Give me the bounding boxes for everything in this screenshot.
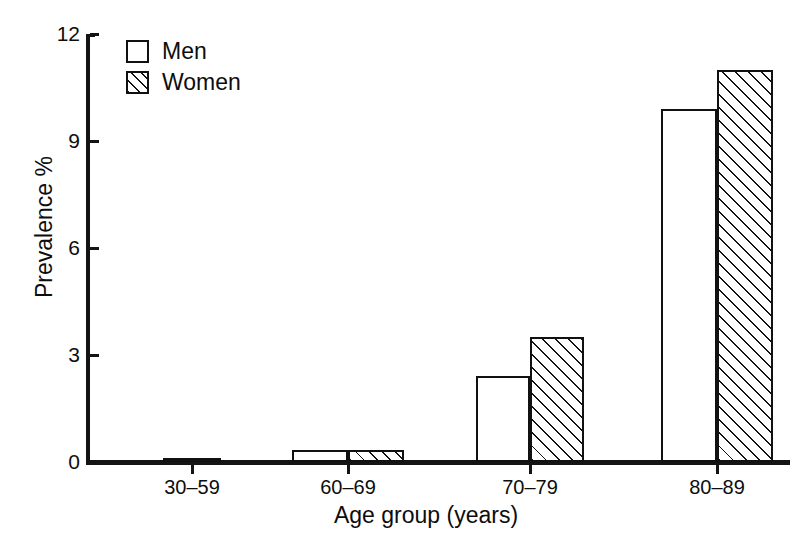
bar-men-70-79: [476, 376, 530, 462]
bar-women-30-59: [192, 458, 221, 462]
legend-label-men: Men: [162, 40, 207, 63]
y-tick-mark: [90, 247, 99, 250]
y-tick-mark: [90, 354, 99, 357]
y-tick-mark: [90, 140, 99, 143]
bar-men-60-69: [292, 450, 348, 462]
legend-item-men: Men: [126, 36, 241, 67]
x-tick-label: 60–69: [278, 476, 418, 498]
bar-women-70-79: [530, 337, 584, 462]
y-tick-label-wrap: 0: [30, 451, 80, 472]
legend-label-women: Women: [162, 71, 241, 94]
bar-men-80-89: [661, 109, 717, 462]
bar-men-30-59: [163, 458, 192, 462]
x-tick-mark: [529, 463, 532, 474]
x-tick-mark: [716, 463, 719, 474]
x-tick-label: 30–59: [122, 476, 262, 498]
y-axis-title: Prevalence %: [31, 97, 57, 357]
legend: Men Women: [126, 36, 241, 98]
bar-women-80-89: [717, 70, 773, 462]
legend-swatch-women-icon: [126, 71, 149, 94]
legend-swatch-men-icon: [126, 40, 149, 63]
x-tick-label: 80–89: [647, 476, 787, 498]
bar-women-60-69: [348, 450, 404, 462]
y-tick-label: 0: [40, 451, 80, 472]
bar-chart-figure: 036912 Prevalence % 30–5960–6970–7980–89…: [0, 0, 802, 544]
y-tick-label-wrap: 12: [30, 23, 80, 44]
y-tick-label: 12: [40, 23, 80, 44]
legend-item-women: Women: [126, 67, 241, 98]
y-tick-mark: [90, 461, 99, 464]
x-axis-title: Age group (years): [241, 502, 611, 528]
y-tick-mark: [90, 33, 99, 36]
x-tick-mark: [191, 463, 194, 474]
x-tick-label: 70–79: [460, 476, 600, 498]
x-tick-mark: [347, 463, 350, 474]
